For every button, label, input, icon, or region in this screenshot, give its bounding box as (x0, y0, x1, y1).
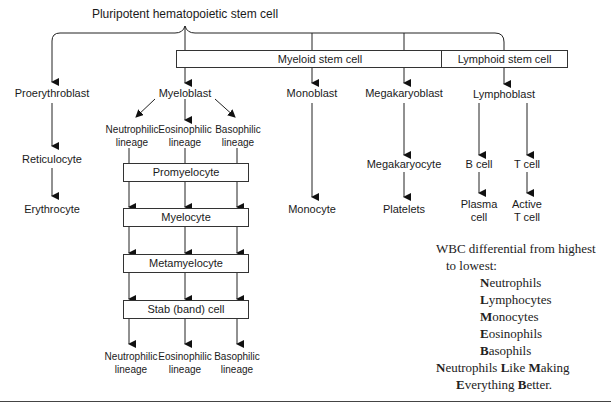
note-item-eosinophils: Eosinophils (436, 325, 596, 342)
myelocyte-box: Myelocyte (123, 208, 249, 227)
metamyelocyte-box: Metamyelocyte (123, 254, 249, 273)
lymphoid-stem-cell-box: Lymphoid stem cell (441, 50, 568, 68)
promyelocyte-box: Promyelocyte (123, 163, 249, 182)
monocyte-label: Monocyte (288, 203, 336, 216)
rest: asophils (489, 343, 532, 358)
b-cell-label: B cell (466, 158, 493, 171)
lineage-line1: Basophilic (214, 350, 260, 363)
initial: N (480, 275, 489, 290)
lineage-line1: Eosinophilic (158, 350, 211, 363)
wbc-differential-note: WBC differential from highest to lowest:… (436, 240, 596, 393)
pluripotent-stem-cell-label: Pluripotent hematopoietic stem cell (92, 8, 278, 21)
note-item-monocytes: Monocytes (436, 308, 596, 325)
eosinophilic-lineage-bottom: Eosinophiliclineage (158, 350, 211, 376)
lineage-line2: lineage (105, 363, 158, 376)
note-heading-1: WBC differential from highest (436, 240, 596, 257)
lineage-line2: lineage (214, 363, 260, 376)
rest: ike (509, 360, 528, 375)
reticulocyte-label: Reticulocyte (22, 153, 82, 166)
initial: E (456, 377, 465, 392)
mnemonic-line-2: Everything Better. (436, 376, 596, 393)
lineage-line2: lineage (106, 136, 159, 149)
rest: osinophils (489, 326, 542, 341)
plasma-line1: Plasma (461, 198, 498, 211)
initial: N (436, 360, 445, 375)
active-line1: Active (512, 198, 542, 211)
neutrophilic-lineage-top: Neutrophiliclineage (106, 123, 159, 149)
lineage-line2: lineage (215, 136, 261, 149)
rest: onocytes (492, 309, 538, 324)
lineage-line1: Neutrophilic (105, 350, 158, 363)
stab-band-cell-box: Stab (band) cell (123, 300, 249, 319)
basophilic-lineage-top: Basophiliclineage (215, 123, 261, 149)
rest: eutrophils (489, 275, 541, 290)
lineage-line1: Eosinophilic (158, 123, 211, 136)
monoblast-label: Monoblast (287, 87, 338, 100)
rest: etter. (526, 377, 552, 392)
platelets-label: Platelets (383, 203, 425, 216)
myeloid-stem-cell-box: Myeloid stem cell (176, 50, 464, 68)
initial: M (528, 360, 540, 375)
active-line2: T cell (512, 211, 542, 224)
initial: B (480, 343, 489, 358)
lineage-line2: lineage (158, 363, 211, 376)
lineage-line2: lineage (158, 136, 211, 149)
mnemonic-line-1: Neutrophils Like Making (436, 359, 596, 376)
neutrophilic-lineage-bottom: Neutrophiliclineage (105, 350, 158, 376)
initial: L (480, 292, 489, 307)
note-item-neutrophils: Neutrophils (436, 274, 596, 291)
active-t-cell-label: ActiveT cell (512, 198, 542, 224)
proerythroblast-label: Proerythroblast (15, 87, 90, 100)
rest: aking (541, 360, 570, 375)
basophilic-lineage-bottom: Basophiliclineage (214, 350, 260, 376)
t-cell-label: T cell (514, 158, 540, 171)
megakaryoblast-label: Megakaryoblast (365, 87, 443, 100)
initial: M (480, 309, 492, 324)
megakaryocyte-label: Megakaryocyte (367, 158, 442, 171)
note-item-lymphocytes: Lymphocytes (436, 291, 596, 308)
bottom-divider (0, 401, 611, 402)
eosinophilic-lineage-top: Eosinophiliclineage (158, 123, 211, 149)
myeloblast-label: Myeloblast (159, 87, 212, 100)
erythrocyte-label: Erythrocyte (24, 203, 80, 216)
lineage-line1: Basophilic (215, 123, 261, 136)
note-heading-2: to lowest: (436, 257, 596, 274)
initial: E (480, 326, 489, 341)
initial: L (501, 360, 510, 375)
note-item-basophils: Basophils (436, 342, 596, 359)
lymphoblast-label: Lymphoblast (473, 88, 535, 101)
rest: eutrophils (445, 360, 500, 375)
lineage-line1: Neutrophilic (106, 123, 159, 136)
rest: verything (465, 377, 518, 392)
plasma-cell-label: Plasmacell (461, 198, 498, 224)
rest: ymphocytes (489, 292, 552, 307)
plasma-line2: cell (461, 211, 498, 224)
